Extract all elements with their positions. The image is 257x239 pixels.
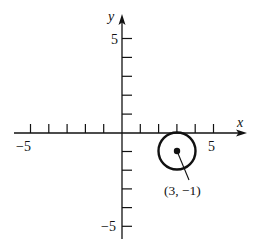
y-axis: y 5 −5 bbox=[101, 9, 132, 239]
y-tick-label-max: 5 bbox=[111, 32, 118, 47]
point-annotation: (3, −1) bbox=[164, 183, 201, 198]
x-axis: x −5 5 bbox=[14, 115, 247, 154]
x-tick-label-max: 5 bbox=[208, 139, 215, 154]
y-tick-label-min: −5 bbox=[101, 219, 116, 234]
x-axis-label: x bbox=[236, 115, 244, 130]
x-tick-label-min: −5 bbox=[16, 139, 31, 154]
y-axis-label: y bbox=[106, 9, 115, 24]
coordinate-plane: x −5 5 y 5 −5 (3, −1) bbox=[0, 0, 257, 239]
